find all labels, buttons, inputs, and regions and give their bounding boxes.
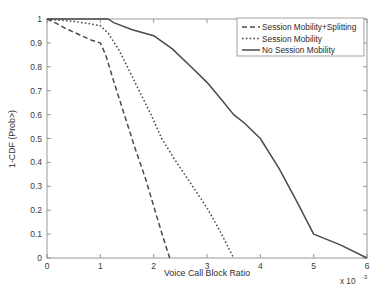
y-tick-label: 0.4 xyxy=(30,157,42,167)
legend-label: Session Mobility+Splitting xyxy=(262,22,357,32)
y-tick-label: 0.1 xyxy=(30,229,42,239)
y-tick-label: 0.8 xyxy=(30,62,42,72)
y-tick-label: 0.6 xyxy=(30,110,42,120)
y-tick-label: 0.7 xyxy=(30,86,42,96)
series-line-dotted xyxy=(47,19,234,258)
y-tick-label: 0.5 xyxy=(30,134,42,144)
legend: Session Mobility+SplittingSession Mobili… xyxy=(237,18,364,56)
y-tick-label: 0.3 xyxy=(30,181,42,191)
x-tick-label: 0 xyxy=(45,261,50,271)
legend-label: No Session Mobility xyxy=(262,45,336,55)
y-tick-label: 1 xyxy=(37,14,42,24)
line-chart-plot: 0123456 00.10.20.30.40.50.60.70.80.91 Vo… xyxy=(0,0,385,298)
x-exponent-power: -3 xyxy=(362,274,367,280)
x-tick-label: 1 xyxy=(98,261,103,271)
chart-figure: 0123456 00.10.20.30.40.50.60.70.80.91 Vo… xyxy=(0,0,385,298)
y-tick-label: 0.9 xyxy=(30,38,42,48)
y-axis-title: 1-CDF (Prob>) xyxy=(7,110,17,168)
x-exponent-base: x 10 xyxy=(340,277,356,286)
x-tick-label: 5 xyxy=(311,261,316,271)
legend-label: Session Mobility xyxy=(262,34,323,44)
y-tick-label: 0.2 xyxy=(30,205,42,215)
x-tick-label: 4 xyxy=(258,261,263,271)
x-tick-label: 2 xyxy=(151,261,156,271)
x-axis-ticks: 0123456 xyxy=(45,19,370,271)
x-tick-label: 6 xyxy=(365,261,370,271)
x-axis-exponent: x 10 -3 xyxy=(340,274,367,286)
y-tick-label: 0 xyxy=(37,253,42,263)
series-line-dashed xyxy=(47,19,170,258)
x-axis-title: Voice Call Block Ratio xyxy=(164,268,250,278)
